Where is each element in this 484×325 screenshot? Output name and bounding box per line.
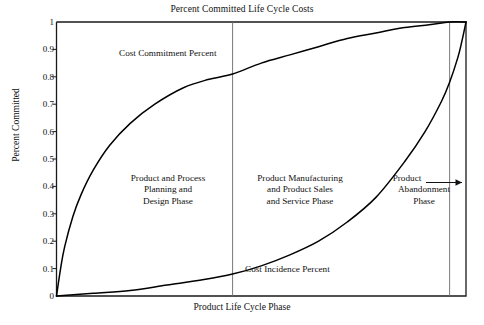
phase3-line-3: Phase — [382, 196, 466, 207]
phase1-line-1: Product and Process — [108, 173, 228, 184]
phase2-line-3: and Service Phase — [233, 196, 367, 207]
cost-incidence-label: Cost Incidence Percent — [245, 264, 330, 274]
phase2-line-2: and Product Sales — [233, 184, 367, 195]
phase3-line-2: Abandonment — [382, 184, 466, 195]
x-axis-title: Product Life Cycle Phase — [0, 302, 484, 312]
cost-commitment-curve — [57, 22, 467, 296]
phase1-line-2: Planning and — [108, 184, 228, 195]
phase-label-abandonment: Product Abandonment Phase — [382, 173, 466, 207]
phase1-line-3: Design Phase — [108, 196, 228, 207]
phase-label-planning-design: Product and Process Planning and Design … — [108, 173, 228, 207]
phase-divider-lines — [233, 22, 450, 296]
phase2-line-1: Product Manufacturing — [233, 173, 367, 184]
plot-area — [0, 0, 484, 325]
phase-label-manufacturing-sales: Product Manufacturing and Product Sales … — [233, 173, 367, 207]
chart-figure: Percent Committed Life Cycle Costs Perce… — [0, 0, 484, 325]
phase3-line-1: Product — [382, 173, 466, 184]
cost-commitment-label: Cost Commitment Percent — [119, 48, 216, 58]
